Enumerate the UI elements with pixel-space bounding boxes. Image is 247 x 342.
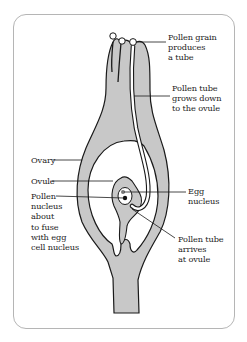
label-pollen-nucleus: Pollen nucleus about to fuse with egg ce… bbox=[31, 191, 79, 252]
pollen-grain-2 bbox=[119, 38, 125, 44]
label-pollen-tube-grows: Pollen tube grows down to the ovule bbox=[172, 83, 221, 114]
label-egg-nucleus: Egg nucleus bbox=[188, 186, 219, 206]
label-pollen-grain: Pollen grain produces a tube bbox=[168, 32, 217, 63]
pollen-grain-1 bbox=[110, 33, 116, 39]
label-ovule: Ovule bbox=[31, 176, 55, 186]
pollen-grain-3 bbox=[130, 39, 137, 46]
label-pollen-tube-arrives: Pollen tube arrives at ovule bbox=[178, 234, 224, 265]
label-ovary: Ovary bbox=[31, 155, 55, 165]
